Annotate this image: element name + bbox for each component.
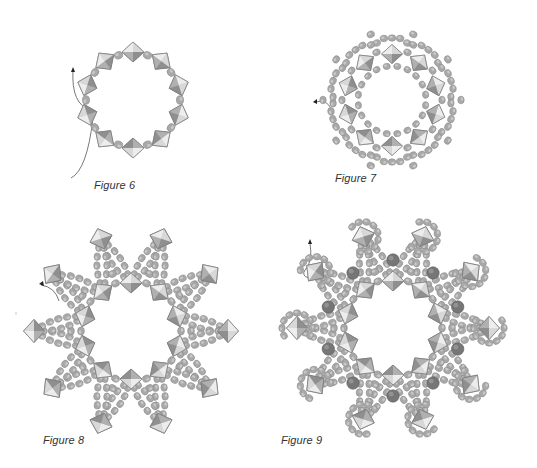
seed-bead xyxy=(170,278,179,287)
seed-bead xyxy=(482,266,489,274)
seed-bead xyxy=(66,300,76,310)
seed-bead xyxy=(485,340,493,346)
seed-bead xyxy=(111,279,121,288)
seed-bead xyxy=(133,391,143,401)
seed-bead xyxy=(297,382,304,390)
seed-bead xyxy=(103,252,110,260)
seed-bead xyxy=(83,278,92,287)
bicone-crystal xyxy=(122,138,144,158)
seed-bead xyxy=(115,253,125,263)
seed-bead xyxy=(60,359,70,369)
bicone-crystal xyxy=(382,45,403,64)
seed-bead xyxy=(82,96,89,104)
seed-bead xyxy=(403,48,412,56)
figure-8-label: Figure 8 xyxy=(43,434,84,446)
pearl-bead xyxy=(427,267,439,279)
seed-bead xyxy=(115,399,125,409)
seed-bead xyxy=(279,324,285,332)
seed-bead xyxy=(186,352,196,362)
seed-bead xyxy=(54,339,63,347)
seed-bead xyxy=(187,272,196,281)
figure-6-label: Figure 6 xyxy=(94,179,135,191)
seed-bead xyxy=(178,274,187,283)
seed-bead xyxy=(428,124,438,134)
seed-bead xyxy=(110,246,120,256)
seed-bead xyxy=(317,312,326,320)
seed-bead xyxy=(137,253,147,263)
bicone-crystal xyxy=(122,42,144,62)
beading-diagram-canvas xyxy=(0,0,537,468)
seed-bead xyxy=(178,379,187,388)
seed-bead xyxy=(104,393,111,401)
seed-bead xyxy=(355,91,362,99)
seed-bead xyxy=(111,374,121,383)
seed-bead xyxy=(452,269,459,277)
seed-bead xyxy=(447,99,454,107)
seed-bead xyxy=(197,286,207,296)
seed-bead xyxy=(143,246,153,256)
seed-bead xyxy=(378,395,388,405)
figure-7-label: Figure 7 xyxy=(335,172,376,184)
seed-bead xyxy=(192,359,202,369)
seed-bead xyxy=(327,84,335,93)
seed-bead xyxy=(94,392,101,400)
seed-bead xyxy=(66,352,76,362)
seed-bead xyxy=(133,261,143,271)
seed-bead xyxy=(411,71,420,80)
seed-bead xyxy=(75,379,84,388)
seed-bead xyxy=(447,76,455,85)
seed-bead xyxy=(120,261,130,271)
pearl-bead xyxy=(322,301,334,313)
seed-bead xyxy=(62,341,71,349)
seed-bead xyxy=(60,293,70,303)
seed-bead xyxy=(192,293,202,303)
seed-bead xyxy=(449,107,457,116)
seed-bead xyxy=(331,136,341,146)
seed-bead xyxy=(403,277,413,286)
seed-bead xyxy=(501,324,507,332)
seed-bead xyxy=(186,300,196,310)
seed-bead xyxy=(439,376,448,385)
seed-bead xyxy=(110,406,120,416)
seed-bead xyxy=(55,286,65,296)
seed-bead xyxy=(372,143,381,151)
seed-bead xyxy=(388,35,396,41)
seed-bead xyxy=(55,366,65,376)
seed-bead xyxy=(393,63,401,70)
seed-bead xyxy=(396,158,404,165)
seed-bead xyxy=(94,253,101,261)
seed-bead xyxy=(357,111,366,120)
seed-bead xyxy=(428,66,438,76)
seed-bead xyxy=(161,384,168,392)
seed-bead xyxy=(293,310,301,316)
seed-bead xyxy=(120,391,130,401)
seed-bead xyxy=(337,376,346,385)
seed-bead xyxy=(413,259,420,267)
seed-bead xyxy=(94,401,101,409)
seed-bead xyxy=(373,277,383,286)
seed-bead xyxy=(366,30,375,38)
seed-bead xyxy=(460,336,469,344)
seed-bead xyxy=(78,327,85,335)
seed-bead xyxy=(414,268,421,276)
seed-bead xyxy=(356,389,363,397)
pearl-bead xyxy=(452,343,464,355)
seed-bead xyxy=(208,318,217,326)
seed-bead xyxy=(190,341,199,349)
seed-bead xyxy=(423,260,430,268)
seed-bead xyxy=(103,402,110,410)
seed-bead xyxy=(460,312,469,320)
seed-bead xyxy=(95,271,102,279)
seed-bead xyxy=(418,111,427,120)
pearl-bead xyxy=(387,254,399,266)
seed-bead xyxy=(383,130,391,137)
seed-bead xyxy=(317,336,326,344)
seed-bead xyxy=(415,218,424,226)
seed-bead xyxy=(363,71,372,80)
seed-bead xyxy=(329,76,337,85)
seed-bead xyxy=(279,331,288,341)
seed-bead xyxy=(443,136,453,146)
seed-bead xyxy=(66,382,75,391)
seed-bead xyxy=(373,370,383,379)
seed-bead xyxy=(208,336,217,344)
